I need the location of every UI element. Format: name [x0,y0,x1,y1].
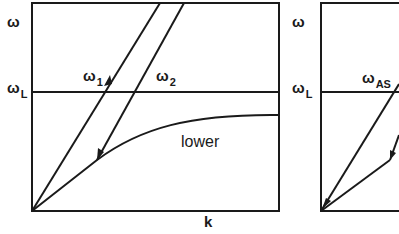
left-wl-main: ω [7,79,20,96]
left-w2-label: ω2 [156,68,176,83]
w2-main: ω [156,67,169,84]
x-axis-label: k [204,214,212,229]
left-wl-label: ωL [7,80,27,95]
left-y-axis-label: ω [7,14,20,29]
left-panel-frame [32,3,279,211]
dispersion-diagram [0,0,399,234]
left-w1-label: ω1 [83,68,103,83]
left-w1-line [32,3,160,211]
was-main: ω [362,69,375,86]
right-y-axis-label: ω [292,14,305,29]
w1-sub: 1 [97,76,103,88]
left-lower-branch-curve [32,115,279,211]
right-lower-branch [321,160,390,211]
right-arrow-icon [390,150,396,160]
right-wl-sub: L [306,88,313,100]
right-wl-main: ω [292,79,305,96]
w1-main: ω [83,67,96,84]
w2-sub: 2 [170,76,176,88]
left-wl-sub: L [21,88,28,100]
right-was-line [321,84,399,211]
was-sub: AS [376,78,391,90]
lower-region-label: lower [181,133,219,151]
right-was-label: ωAS [362,70,391,85]
right-wl-label: ωL [292,80,312,95]
